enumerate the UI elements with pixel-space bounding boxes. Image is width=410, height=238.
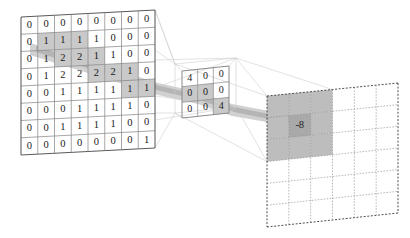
- svg-text:0: 0: [144, 30, 149, 41]
- svg-text:1: 1: [94, 102, 99, 113]
- svg-text:1: 1: [111, 49, 116, 60]
- svg-text:0: 0: [94, 136, 99, 147]
- svg-text:0: 0: [127, 48, 132, 59]
- svg-text:1: 1: [94, 84, 99, 95]
- svg-text:2: 2: [111, 66, 116, 77]
- svg-text:1: 1: [111, 84, 116, 95]
- svg-text:0: 0: [219, 84, 224, 95]
- svg-text:2: 2: [94, 67, 99, 78]
- svg-text:0: 0: [44, 104, 49, 115]
- svg-text:1: 1: [111, 118, 116, 129]
- svg-text:1: 1: [44, 53, 49, 64]
- svg-text:0: 0: [27, 88, 32, 99]
- svg-text:0: 0: [144, 99, 149, 110]
- svg-text:0: 0: [27, 105, 32, 116]
- svg-text:0: 0: [127, 14, 132, 25]
- svg-text:1: 1: [94, 50, 99, 61]
- diagram-canvas: 0000000001111000012211000122221000111111…: [0, 0, 410, 238]
- svg-text:0: 0: [44, 87, 49, 98]
- svg-text:0: 0: [60, 103, 65, 114]
- svg-text:0: 0: [77, 16, 82, 27]
- svg-text:0: 0: [203, 101, 208, 112]
- svg-text:1: 1: [60, 121, 65, 132]
- svg-text:0: 0: [111, 32, 116, 43]
- svg-text:0: 0: [187, 87, 192, 98]
- svg-text:4: 4: [219, 100, 224, 111]
- svg-text:1: 1: [60, 86, 65, 97]
- svg-text:2: 2: [77, 68, 82, 79]
- svg-text:0: 0: [27, 71, 32, 82]
- svg-text:1: 1: [60, 34, 65, 45]
- svg-text:1: 1: [94, 119, 99, 130]
- svg-text:1: 1: [127, 100, 132, 111]
- svg-text:0: 0: [44, 139, 49, 150]
- output-feature-map: -8: [267, 83, 398, 227]
- svg-text:0: 0: [127, 134, 132, 145]
- svg-text:1: 1: [111, 101, 116, 112]
- svg-text:0: 0: [60, 17, 65, 28]
- svg-text:1: 1: [77, 120, 82, 131]
- svg-text:0: 0: [187, 103, 192, 114]
- svg-text:0: 0: [27, 19, 32, 30]
- input-feature-map: 0000000001111000012211000122221000111111…: [21, 10, 155, 155]
- svg-text:1: 1: [77, 85, 82, 96]
- svg-text:1: 1: [127, 65, 132, 76]
- svg-text:-8: -8: [295, 119, 304, 130]
- svg-text:4: 4: [187, 72, 192, 83]
- svg-text:2: 2: [77, 51, 82, 62]
- svg-text:0: 0: [144, 13, 149, 24]
- svg-text:1: 1: [94, 33, 99, 44]
- svg-text:0: 0: [203, 86, 208, 97]
- svg-text:0: 0: [44, 18, 49, 29]
- svg-text:0: 0: [60, 138, 65, 149]
- svg-text:0: 0: [127, 117, 132, 128]
- svg-text:0: 0: [27, 36, 32, 47]
- svg-text:1: 1: [144, 134, 149, 145]
- svg-text:0: 0: [94, 15, 99, 26]
- svg-text:0: 0: [203, 70, 208, 81]
- svg-text:0: 0: [27, 140, 32, 151]
- svg-text:1: 1: [127, 83, 132, 94]
- svg-text:0: 0: [127, 31, 132, 42]
- svg-text:1: 1: [44, 35, 49, 46]
- convolution-diagram: 0000000001111000012211000122221000111111…: [0, 0, 410, 238]
- svg-text:1: 1: [77, 34, 82, 45]
- svg-text:0: 0: [44, 122, 49, 133]
- svg-text:0: 0: [27, 53, 32, 64]
- svg-text:1: 1: [77, 103, 82, 114]
- svg-text:0: 0: [27, 122, 32, 133]
- svg-text:2: 2: [60, 52, 65, 63]
- svg-text:1: 1: [44, 70, 49, 81]
- svg-text:0: 0: [111, 135, 116, 146]
- svg-text:2: 2: [60, 69, 65, 80]
- svg-text:0: 0: [77, 137, 82, 148]
- output-cell-values: -8: [295, 119, 304, 130]
- svg-text:1: 1: [144, 82, 149, 93]
- svg-text:0: 0: [219, 68, 224, 79]
- svg-text:0: 0: [144, 116, 149, 127]
- svg-text:0: 0: [144, 65, 149, 76]
- svg-text:0: 0: [144, 47, 149, 58]
- svg-text:0: 0: [111, 15, 116, 26]
